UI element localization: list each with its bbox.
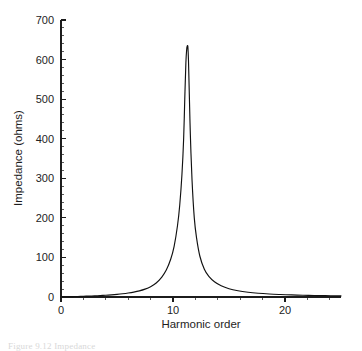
y-tick-label: 500 xyxy=(36,93,54,105)
figure-caption: Figure 9.12 Impedance xyxy=(8,341,95,351)
y-tick-label: 700 xyxy=(36,14,54,26)
y-tick-label: 600 xyxy=(36,54,54,66)
y-tick-label: 200 xyxy=(36,212,54,224)
x-tick-label: 0 xyxy=(58,304,64,316)
y-tick-label: 0 xyxy=(48,291,54,303)
x-tick-label: 10 xyxy=(167,304,179,316)
y-axis-title: Impedance (ohms) xyxy=(12,110,24,206)
x-tick-label: 20 xyxy=(279,304,291,316)
y-tick-label: 100 xyxy=(36,251,54,263)
y-tick-label: 300 xyxy=(36,172,54,184)
y-tick-label: 400 xyxy=(36,133,54,145)
x-axis-title: Harmonic order xyxy=(161,318,240,330)
